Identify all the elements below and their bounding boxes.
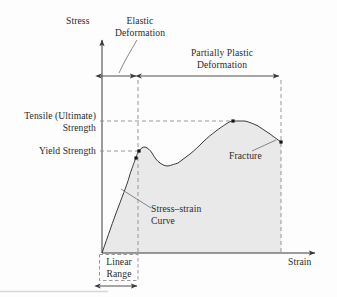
curve-label-line1: Stress–strain [151, 203, 201, 214]
ultimate-point-marker [231, 119, 234, 122]
fracture-label: Fracture [229, 150, 262, 161]
tensile-ultimate-strength-label: Tensile (Ultimate) Strength [2, 110, 96, 133]
linear-range-label-line2: Range [106, 268, 131, 279]
x-axis-label: Strain [288, 256, 312, 267]
y-axis-label: Stress [66, 15, 90, 26]
ultimate-strength-label-line2: Strength [63, 122, 96, 133]
fracture-point-marker [279, 140, 282, 143]
yield-point-marker [137, 149, 140, 152]
elastic-label-leader-line [119, 40, 137, 73]
elastic-deformation-label: Elastic Deformation [98, 15, 182, 38]
partially-plastic-deformation-label: Partially Plastic Deformation [172, 47, 272, 70]
elastic-deformation-label-line1: Elastic [127, 15, 154, 26]
curve-fill-area [102, 121, 281, 253]
stress-strain-curve-label: Stress–strain Curve [151, 203, 201, 226]
plastic-deformation-label-line1: Partially Plastic [191, 47, 253, 58]
proportional-limit-marker [134, 156, 137, 159]
linear-range-label: Linear Range [100, 256, 138, 279]
plastic-deformation-label-line2: Deformation [197, 59, 247, 70]
elastic-deformation-label-line2: Deformation [115, 27, 165, 38]
linear-range-label-line1: Linear [106, 256, 132, 267]
ultimate-strength-label-line1: Tensile (Ultimate) [24, 110, 96, 121]
yield-strength-label: Yield Strength [2, 145, 96, 156]
stress-strain-diagram: Stress Strain Elastic Deformation Partia… [0, 0, 337, 297]
curve-label-line2: Curve [151, 215, 175, 226]
